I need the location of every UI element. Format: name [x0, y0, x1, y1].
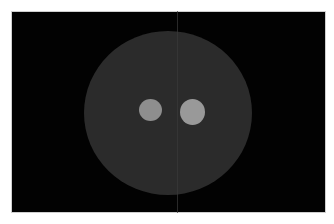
phantom-disc	[84, 31, 252, 195]
artifact-line	[177, 11, 178, 213]
left-insert	[139, 99, 162, 121]
right-insert	[180, 99, 205, 125]
